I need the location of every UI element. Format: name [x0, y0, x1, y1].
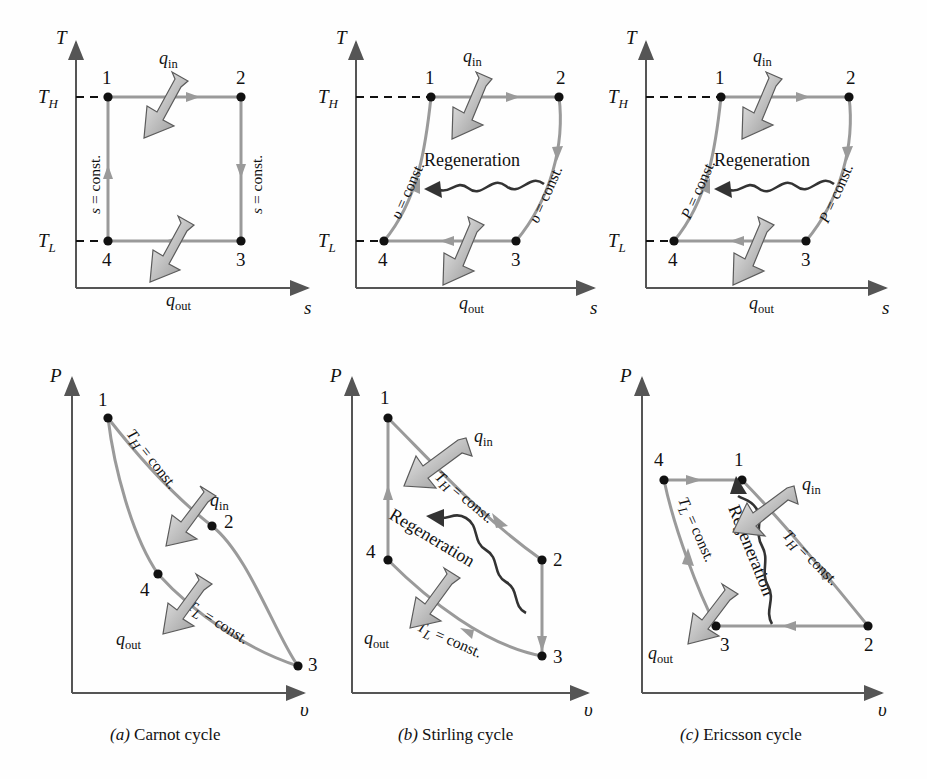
- process-label-4-1: s = const.: [86, 155, 103, 214]
- regeneration-wavy-line: [440, 181, 544, 191]
- state-label-1: 1: [425, 67, 435, 88]
- axis-label-s: s: [882, 297, 889, 318]
- flow-arrow-4-1: [686, 475, 702, 485]
- flow-arrow-2-3: [537, 636, 547, 652]
- flow-arrow-1-2: [796, 92, 810, 102]
- q-out-arrow: [443, 217, 484, 285]
- q-in-label: qin: [159, 48, 178, 71]
- state-point-2: [537, 555, 546, 564]
- regeneration-wavy-line: [730, 181, 834, 191]
- state-label-2: 2: [553, 549, 563, 570]
- process-label-2-3: υ = const.: [525, 163, 565, 225]
- tick-label-TL: TL: [38, 230, 56, 255]
- q-in-arrow: [144, 72, 188, 138]
- state-point-3: [236, 236, 245, 245]
- tick-label-TH: TH: [318, 86, 339, 111]
- q-out-arrow: [410, 568, 460, 628]
- axis-label-s: s: [304, 297, 311, 318]
- state-label-1: 1: [734, 449, 744, 470]
- process-label-2-3: P = const.: [815, 161, 856, 226]
- state-label-4: 4: [654, 449, 664, 470]
- state-label-3: 3: [511, 249, 521, 270]
- state-point-4: [659, 475, 668, 484]
- q-out-arrow: [163, 574, 212, 634]
- state-point-4: [103, 236, 112, 245]
- chart-stirling-ts: T s TH TL 1 2 3 4 υ = const. υ = const.: [316, 24, 616, 324]
- state-label-4: 4: [140, 579, 150, 600]
- state-label-2: 2: [846, 67, 856, 88]
- tick-label-TH: TH: [38, 86, 59, 111]
- state-label-3: 3: [236, 249, 246, 270]
- flow-arrow-1-2: [186, 92, 200, 102]
- state-point-3: [801, 236, 810, 245]
- state-point-4: [153, 569, 162, 578]
- caption-letter-a: (a): [110, 725, 130, 744]
- flow-arrow-1-2: [506, 92, 520, 102]
- state-point-3: [537, 651, 546, 660]
- process-label-4-1: υ = const.: [387, 159, 427, 221]
- state-label-2: 2: [236, 67, 246, 88]
- q-out-label: qout: [166, 290, 192, 313]
- chart-carnot-pv: P υ 1 2 3 4 TH = const. TL = const. qin: [36, 368, 326, 708]
- chart-carnot-ts: T s TH TL 1 2 3 4 s = const.: [36, 24, 326, 324]
- state-point-4: [383, 555, 392, 564]
- state-point-2: [207, 521, 216, 530]
- q-out-label: qout: [459, 293, 485, 316]
- state-label-2: 2: [224, 511, 234, 532]
- chart-stirling-pv: P υ 1 2 3 4 TH = const. TL = const. Rege…: [316, 368, 616, 708]
- caption-carnot: (a) Carnot cycle: [110, 725, 220, 745]
- q-in-arrow: [452, 72, 492, 139]
- state-point-2: [554, 92, 563, 101]
- q-out-label: qout: [116, 629, 142, 652]
- tick-label-TL: TL: [318, 230, 336, 255]
- state-point-4: [379, 236, 388, 245]
- axis-label-P: P: [329, 365, 342, 386]
- q-in-label: qin: [210, 490, 229, 513]
- flow-arrow-3-4: [440, 236, 454, 246]
- axis-label-v: υ: [878, 699, 887, 720]
- axis-label-P: P: [619, 365, 632, 386]
- caption-stirling: (b) Stirling cycle: [398, 725, 513, 745]
- flow-arrow-4-1: [103, 165, 113, 179]
- q-in-arrow: [166, 486, 216, 546]
- axis-label-s: s: [590, 297, 597, 318]
- axis-label-v: υ: [584, 699, 593, 720]
- state-point-3: [293, 661, 302, 670]
- q-out-label: qout: [648, 643, 674, 666]
- axis-label-T: T: [336, 27, 348, 48]
- regeneration-label: Regeneration: [714, 150, 810, 170]
- state-label-4: 4: [366, 541, 376, 562]
- q-in-arrow: [742, 72, 782, 139]
- caption-text-a: Carnot cycle: [130, 725, 221, 744]
- axis-label-v: υ: [300, 699, 309, 720]
- state-point-3: [511, 236, 520, 245]
- caption-ericsson: (c) Ericsson cycle: [680, 725, 802, 745]
- regeneration-arrowhead: [424, 181, 442, 198]
- state-point-2: [236, 92, 245, 101]
- process-label-1-2: TH = const.: [777, 526, 842, 591]
- q-out-arrow: [688, 584, 738, 644]
- q-in-label: qin: [463, 46, 482, 69]
- state-label-2: 2: [864, 634, 874, 655]
- state-label-1: 1: [715, 67, 725, 88]
- caption-letter-b: (b): [398, 725, 418, 744]
- state-point-1: [426, 92, 435, 101]
- state-label-4: 4: [102, 249, 112, 270]
- tick-label-TH: TH: [608, 86, 629, 111]
- state-point-1: [103, 92, 112, 101]
- q-out-label: qout: [364, 628, 390, 651]
- regeneration-label: Regeneration: [424, 150, 520, 170]
- state-label-1: 1: [98, 389, 108, 410]
- state-point-2: [844, 92, 853, 101]
- caption-text-b: Stirling cycle: [418, 725, 513, 744]
- process-label-2-3: s = const.: [248, 155, 265, 214]
- state-label-3: 3: [720, 634, 730, 655]
- process-2-3: [212, 526, 298, 666]
- process-label-4-1: P = const.: [677, 157, 718, 222]
- q-out-label: qout: [749, 293, 775, 316]
- state-label-4: 4: [378, 249, 388, 270]
- flow-arrow-2-3: [782, 621, 796, 631]
- q-out-arrow: [733, 217, 774, 285]
- chart-ericsson-pv: P υ 4 1 2 3 TL = const. TH = const. Rege…: [606, 368, 911, 708]
- regeneration-wavy-line: [442, 515, 526, 613]
